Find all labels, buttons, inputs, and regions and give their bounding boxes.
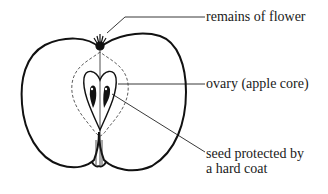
leader-seed [112,94,205,152]
label-remains-of-flower: remains of flower [206,9,306,24]
label-ovary: ovary (apple core) [206,76,309,91]
flower-remains [94,34,106,50]
label-seed-line1: seed protected by [206,146,304,161]
apple-diagram [0,0,328,194]
label-seed-line2: a hard coat [206,161,267,176]
leader-remains-of-flower [107,17,205,33]
